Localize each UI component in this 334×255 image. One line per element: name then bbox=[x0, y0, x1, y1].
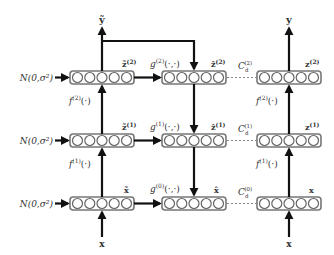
ladder-network-diagram: ỹ y x x N(0,σ²) N(0,σ²) N(0,σ²) z̃(2) z̃… bbox=[0, 0, 334, 255]
g0-label: g(0)(·,·) bbox=[150, 182, 180, 194]
f1-label-corrupted: f(1)(·) bbox=[68, 157, 91, 169]
cost-links bbox=[227, 78, 257, 204]
f2-label-corrupted: f(2)(·) bbox=[68, 94, 91, 106]
input-label-clean: x bbox=[286, 239, 292, 249]
layer-x bbox=[257, 197, 321, 210]
output-label-corrupted: ỹ bbox=[98, 14, 106, 25]
f1-label-clean: f(1)(·) bbox=[255, 157, 278, 169]
layer-z-tilde-2 bbox=[70, 71, 134, 84]
label-z-hat-2: ẑ(2) bbox=[211, 58, 226, 69]
label-x-tilde: x̃ bbox=[124, 185, 129, 195]
cost-label-1: Cd(1) bbox=[238, 123, 252, 136]
label-z-tilde-1: z̃(1) bbox=[122, 121, 137, 132]
layer-z-hat-2 bbox=[162, 71, 226, 84]
layer-z-hat-1 bbox=[162, 134, 226, 147]
cost-label-0: Cd(0) bbox=[238, 186, 252, 199]
g2-label: g(2)(·,·) bbox=[150, 57, 180, 69]
top-feedback-arrow bbox=[102, 41, 194, 69]
layer-z-tilde-1 bbox=[70, 134, 134, 147]
input-label-corrupted: x bbox=[99, 239, 105, 249]
noise-label-1: N(0,σ²) bbox=[19, 136, 54, 146]
label-x-hat: x̂ bbox=[214, 185, 219, 195]
output-label-clean: y bbox=[285, 14, 293, 25]
layer-x-hat bbox=[162, 197, 226, 210]
noise-label-0: N(0,σ²) bbox=[19, 199, 54, 209]
cost-label-2: Cd(2) bbox=[238, 60, 252, 73]
f2-label-clean: f(2)(·) bbox=[255, 94, 278, 106]
noise-arrows bbox=[55, 78, 68, 204]
label-z-hat-1: ẑ(1) bbox=[211, 121, 226, 132]
label-z-1: z(1) bbox=[305, 121, 320, 132]
label-z-tilde-2: z̃(2) bbox=[122, 58, 137, 69]
layer-x-tilde bbox=[70, 197, 134, 210]
g1-label: g(1)(·,·) bbox=[150, 120, 180, 132]
label-x: x bbox=[309, 185, 314, 195]
noise-label-2: N(0,σ²) bbox=[19, 73, 54, 83]
layer-z-1 bbox=[257, 134, 321, 147]
layer-z-2 bbox=[257, 71, 321, 84]
label-z-2: z(2) bbox=[305, 58, 320, 69]
